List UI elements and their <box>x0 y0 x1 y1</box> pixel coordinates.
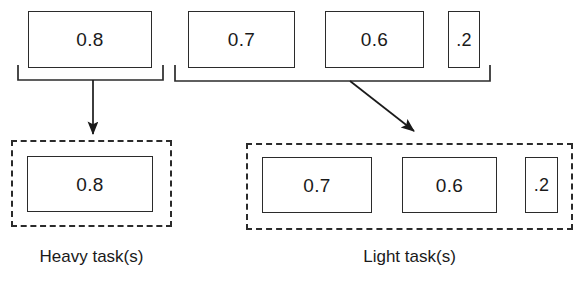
task-partition-diagram: 0.8 0.7 0.6 .2 0.8 Heavy task(s) 0.7 0.6… <box>0 0 578 286</box>
light-partition-box-2: .2 <box>525 157 558 213</box>
top-light-box-0: 0.7 <box>188 11 295 68</box>
light-partition-box-1: 0.6 <box>402 157 497 213</box>
light-partition-label: Light task(s) <box>246 248 573 265</box>
light-partition-box-0: 0.7 <box>262 157 372 213</box>
light-arrow <box>350 81 414 131</box>
top-heavy-box-0: 0.8 <box>28 11 152 68</box>
heavy-partition-box-0: 0.8 <box>27 156 153 212</box>
top-light-box-2: .2 <box>448 11 480 68</box>
top-light-box-1: 0.6 <box>325 11 424 68</box>
heavy-partition-label: Heavy task(s) <box>11 248 172 265</box>
